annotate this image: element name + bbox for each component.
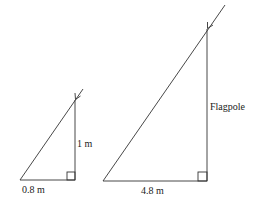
similar-triangles-diagram: 1 m 0.8 m Flagpole 4.8 m xyxy=(0,0,262,202)
large-right-angle-marker xyxy=(198,172,207,181)
small-base-label: 0.8 m xyxy=(22,184,45,195)
large-base-label: 4.8 m xyxy=(141,185,164,196)
small-height-label: 1 m xyxy=(77,138,93,149)
small-triangle xyxy=(20,89,83,180)
flagpole-label: Flagpole xyxy=(210,101,246,112)
large-triangle xyxy=(103,5,225,181)
small-sun-ray xyxy=(20,89,83,180)
small-right-angle-marker xyxy=(67,172,75,180)
